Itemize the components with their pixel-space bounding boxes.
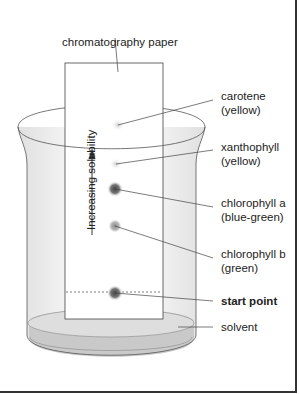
- pigment-color: (blue-green): [221, 210, 286, 224]
- arrow-label: Increasing solubility: [85, 130, 97, 230]
- label-chlorophyll-a: chlorophyll a (blue-green): [221, 196, 286, 224]
- label-carotene: carotene (yellow): [221, 89, 266, 117]
- pigment-color: (green): [221, 261, 286, 275]
- label-start-point: start point: [221, 294, 277, 308]
- pigment-color: (yellow): [221, 103, 266, 117]
- label-xanthophyll: xanthophyll (yellow): [221, 140, 279, 168]
- pigment-color: (yellow): [221, 154, 279, 168]
- pigment-name: chlorophyll a: [221, 196, 286, 210]
- label-solvent: solvent: [221, 320, 257, 334]
- label-chlorophyll-b: chlorophyll b (green): [221, 247, 286, 275]
- pigment-name: chlorophyll b: [221, 247, 286, 261]
- pigment-name: xanthophyll: [221, 140, 279, 154]
- pigment-name: carotene: [221, 89, 266, 103]
- paper-label: chromatography paper: [62, 35, 178, 49]
